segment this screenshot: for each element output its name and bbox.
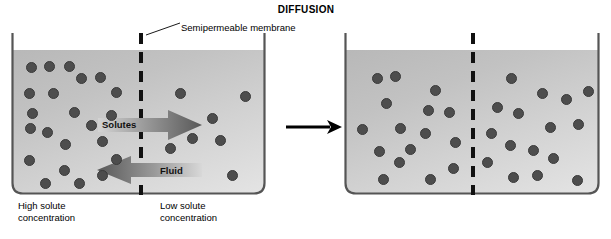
semipermeable-membrane-after bbox=[471, 33, 475, 195]
semipermeable-membrane-label: Semipermeable membrane bbox=[181, 22, 296, 33]
caption-line-2: concentration bbox=[160, 212, 217, 223]
fluid-flow-arrow bbox=[97, 156, 202, 184]
fluid-label: Fluid bbox=[160, 165, 183, 176]
diffusion-diagram: DIFFUSION Semipermeable membrane Solutes bbox=[0, 0, 611, 239]
solutes-label: Solutes bbox=[102, 119, 136, 130]
time-progression-arrow bbox=[286, 118, 342, 136]
caption-line-1: Low solute bbox=[160, 200, 205, 211]
high-solute-caption: High solute concentration bbox=[18, 200, 75, 224]
low-solute-caption: Low solute concentration bbox=[160, 200, 217, 224]
caption-line-1: High solute bbox=[18, 200, 66, 211]
page-title: DIFFUSION bbox=[246, 4, 366, 15]
caption-line-2: concentration bbox=[18, 212, 75, 223]
